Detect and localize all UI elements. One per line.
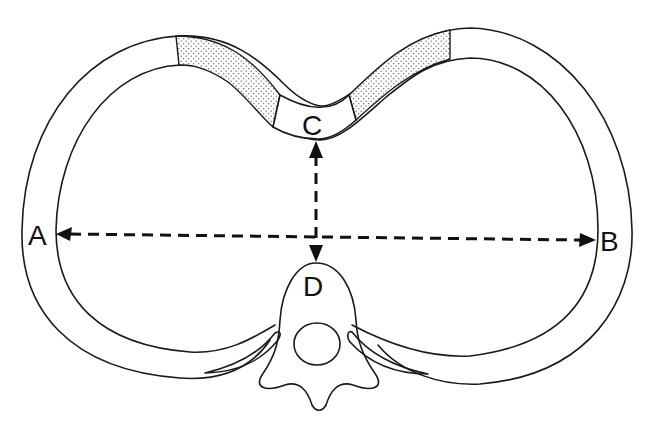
label-c: C bbox=[302, 110, 322, 141]
arrowhead-right-icon bbox=[579, 233, 596, 247]
costal-cartilage-left bbox=[176, 36, 280, 127]
thorax-cross-section-diagram: A B C D bbox=[0, 0, 654, 430]
arrowhead-up-icon bbox=[309, 141, 323, 158]
costal-cartilage-right bbox=[349, 30, 450, 120]
label-d: D bbox=[303, 271, 323, 302]
transverse-diameter-line bbox=[70, 234, 580, 240]
arrowhead-left-icon bbox=[56, 227, 72, 241]
label-a: A bbox=[28, 220, 47, 251]
arrowhead-down-icon bbox=[309, 245, 323, 262]
spinal-canal bbox=[294, 323, 340, 365]
chest-wall-outer-left bbox=[22, 36, 270, 378]
label-b: B bbox=[600, 226, 619, 257]
rib-head-right bbox=[348, 332, 428, 374]
